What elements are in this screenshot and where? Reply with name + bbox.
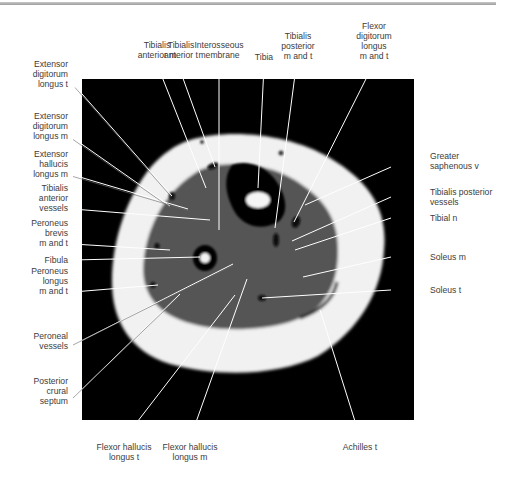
label-interosseous-membrane: Interosseous membrane <box>189 40 249 60</box>
label-posterior-crural-septum: Posterior crural septum <box>10 376 68 406</box>
label-peroneal-vessels: Peroneal vessels <box>10 331 68 351</box>
fibula-bone <box>193 245 217 271</box>
label-greater-saphenous-v: Greater saphenous v <box>430 151 510 171</box>
label-achilles-t: Achilles t <box>330 442 390 452</box>
label-peroneus-longus-m-and-t: Peroneus longus m and t <box>10 266 68 296</box>
label-tibia: Tibia <box>249 52 279 62</box>
label-extensor-hallucis-longus-m: Extensor hallucis longus m <box>10 149 68 179</box>
label-flexor-digitorum-longus-m-and-t: Flexor digitorum longus m and t <box>350 21 398 61</box>
label-extensor-digitorum-longus-m: Extensor digitorum longus m <box>10 111 68 141</box>
label-peroneus-brevis-m-and-t: Peroneus brevis m and t <box>10 218 68 248</box>
label-soleus-t: Soleus t <box>430 285 510 295</box>
label-flexor-hallucis-longus-m: Flexor hallucis longus m <box>152 442 228 462</box>
label-fibula: Fibula <box>10 255 68 265</box>
label-extensor-digitorum-longus-t: Extensor digitorum longus t <box>10 59 68 89</box>
label-tibialis-anterior-vessels: Tibialis anterior vessels <box>10 183 68 213</box>
label-tibialis-posterior-m-and-t: Tibialis posterior m and t <box>276 31 320 61</box>
label-soleus-m: Soleus m <box>430 252 510 262</box>
label-tibial-n: Tibial n <box>430 213 510 223</box>
mri-figure <box>0 0 511 479</box>
label-tibialis-posterior-vessels: Tibialis posterior vessels <box>430 187 510 207</box>
label-flexor-hallucis-longus-t: Flexor hallucis longus t <box>86 442 162 462</box>
